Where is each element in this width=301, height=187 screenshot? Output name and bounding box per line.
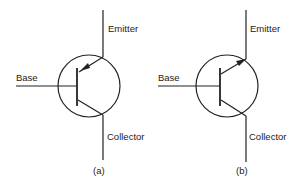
transistor-b-collector-arm: [221, 100, 246, 116]
transistor-a-collector-arm: [78, 100, 103, 115]
transistor-a-collector-label: Collector: [107, 132, 145, 142]
transistor-a-symbol: [16, 10, 120, 160]
transistor-a-base-label: Base: [16, 73, 38, 83]
transistor-a-emitter-label: Emitter: [108, 24, 138, 34]
transistor-b-symbol: [158, 10, 258, 162]
transistor-b-emitter-label: Emitter: [250, 24, 280, 34]
transistor-b-caption: (b): [236, 166, 248, 176]
transistor-b-base-label: Base: [158, 73, 180, 83]
transistor-b-arrow-icon: [236, 59, 246, 66]
transistor-a-caption: (a): [93, 166, 105, 176]
transistor-a-arrow-icon: [80, 63, 90, 71]
transistor-b-collector-label: Collector: [249, 132, 287, 142]
